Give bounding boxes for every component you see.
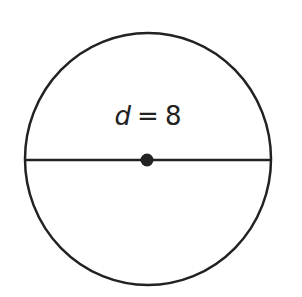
diameter-label: d=8	[115, 101, 182, 131]
center-point	[141, 154, 154, 167]
circle-diagram: d=8	[0, 0, 302, 297]
diameter-variable: d	[115, 101, 132, 131]
diameter-value: 8	[165, 101, 182, 131]
equals-sign: =	[137, 101, 159, 131]
